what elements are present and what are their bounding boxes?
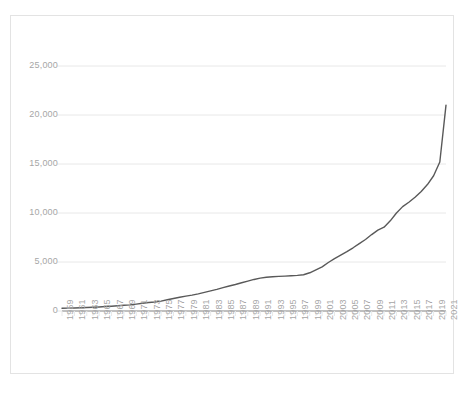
- x-axis-label: 2021: [450, 299, 459, 320]
- x-axis-label: 1991: [264, 299, 273, 320]
- x-axis-label: 1973: [153, 299, 162, 320]
- x-axis-label: 1983: [215, 299, 224, 320]
- x-axis-label: 1989: [252, 299, 261, 320]
- x-axis-label: 2009: [376, 299, 385, 320]
- x-axis-label: 1997: [301, 299, 310, 320]
- x-axis-label: 1977: [177, 299, 186, 320]
- x-axis-label: 2015: [413, 299, 422, 320]
- x-axis-label: 2001: [326, 299, 335, 320]
- x-axis-label: 2007: [363, 299, 372, 320]
- x-axis-label: 1961: [78, 299, 87, 320]
- x-axis-label: 1959: [66, 299, 75, 320]
- x-axis-label: 1975: [165, 299, 174, 320]
- x-axis-label: 2017: [425, 299, 434, 320]
- x-axis-label: 1987: [239, 299, 248, 320]
- x-axis-label: 1993: [277, 299, 286, 320]
- x-axis-label: 1967: [116, 299, 125, 320]
- x-axis-label: 2011: [388, 300, 397, 320]
- x-axis-tick-labels: 1959196119631965196719691971197319751977…: [0, 0, 463, 394]
- x-axis-label: 1979: [190, 299, 199, 320]
- x-axis-label: 1999: [314, 299, 323, 320]
- x-axis-label: 1969: [128, 299, 137, 320]
- x-axis-label: 1995: [289, 299, 298, 320]
- x-axis-label: 1963: [91, 299, 100, 320]
- x-axis-label: 1985: [227, 299, 236, 320]
- x-axis-label: 2005: [351, 299, 360, 320]
- x-axis-label: 2003: [339, 299, 348, 320]
- x-axis-label: 2019: [438, 299, 447, 320]
- x-axis-label: 1965: [103, 299, 112, 320]
- x-axis-label: 1981: [202, 299, 211, 320]
- x-axis-label: 2013: [400, 299, 409, 320]
- x-axis-label: 1971: [140, 299, 149, 320]
